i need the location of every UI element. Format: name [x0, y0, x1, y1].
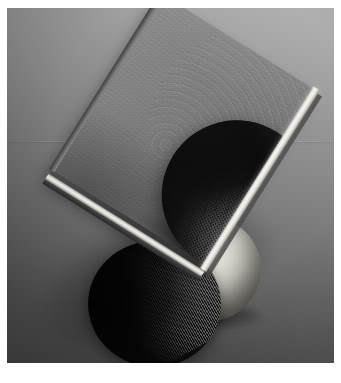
film-grain	[7, 8, 334, 363]
image-title: Tilted plate with dark dimpled sphere	[0, 0, 1, 1]
rendered-scene	[7, 8, 334, 363]
photo-frame: Tilted plate with dark dimpled sphere	[0, 0, 341, 383]
